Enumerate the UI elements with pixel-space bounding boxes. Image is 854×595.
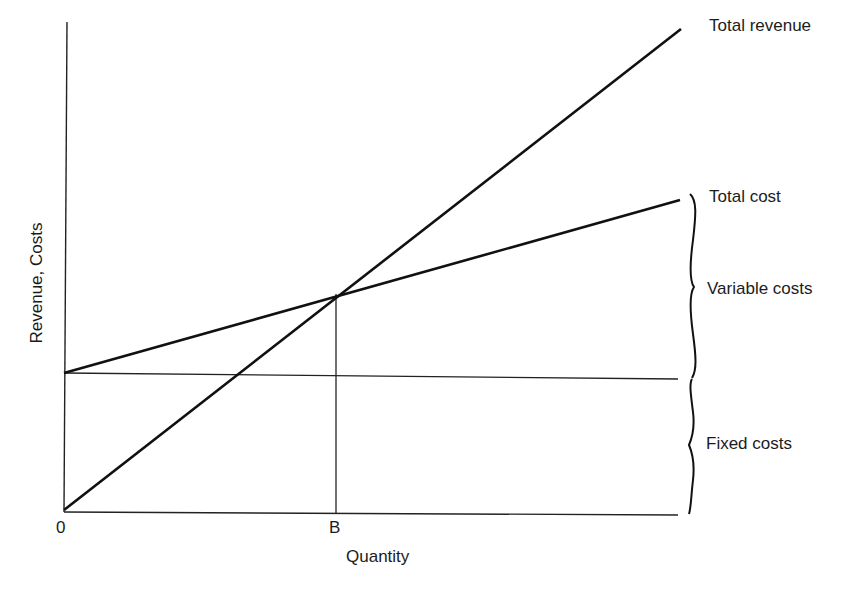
total-revenue-line bbox=[64, 29, 681, 510]
variable-costs-brace bbox=[690, 194, 696, 378]
y-axis-label: Revenue, Costs bbox=[27, 223, 47, 344]
x-axis bbox=[64, 512, 678, 515]
variable-costs-label: Variable costs bbox=[707, 279, 813, 299]
fixed-costs-label: Fixed costs bbox=[706, 434, 792, 454]
total-cost-label: Total cost bbox=[709, 187, 781, 207]
total-revenue-label: Total revenue bbox=[709, 16, 811, 36]
total-cost-line bbox=[64, 200, 680, 373]
x-tick-origin: 0 bbox=[56, 518, 65, 538]
y-axis bbox=[64, 22, 67, 512]
fixed-costs-brace bbox=[689, 379, 694, 514]
x-tick-breakeven: B bbox=[329, 518, 340, 538]
x-axis-label: Quantity bbox=[346, 547, 409, 567]
fixed-cost-line bbox=[64, 373, 678, 379]
